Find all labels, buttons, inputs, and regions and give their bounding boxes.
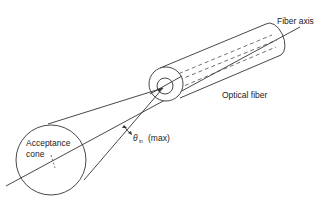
fiber-cladding-circle <box>149 67 183 101</box>
theta-max-label: (max) <box>148 133 170 143</box>
core-dash-bottom <box>172 47 276 91</box>
angle-arrow-icon <box>122 125 127 128</box>
core-dash-top <box>166 35 272 79</box>
fiber-axis-line <box>6 27 300 186</box>
fiber-axis-label: Fiber axis <box>277 16 314 26</box>
optical-fiber-label: Optical fiber <box>222 90 268 100</box>
fiber-top-edge <box>160 24 266 68</box>
fiber-diagram: Fiber axis Optical fiber θ in (max) Acce… <box>0 0 329 205</box>
cone-edge-top <box>48 88 163 124</box>
acceptance-label-line2: cone <box>26 149 45 159</box>
acceptance-label-line1: Acceptance <box>26 138 71 148</box>
theta-label: θ <box>133 133 138 143</box>
acceptance-cone-circle <box>16 125 86 195</box>
cladding-dash <box>179 40 277 80</box>
theta-subscript: in <box>139 138 143 144</box>
